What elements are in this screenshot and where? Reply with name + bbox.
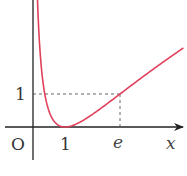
x-axis-label: x [166,133,176,153]
curve-ln-squared [37,0,183,127]
y-tick-1-label: 1 [15,84,26,104]
function-plot: 1 O 1 e x [0,0,187,176]
origin-label: O [11,134,25,154]
x-tick-1-label: 1 [60,134,71,154]
x-tick-e-label: e [113,132,123,152]
